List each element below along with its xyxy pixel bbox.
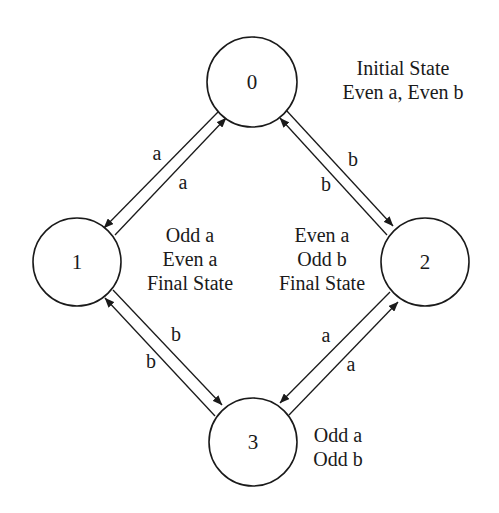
transition-symbol-label: b xyxy=(171,323,181,345)
states: 0123 xyxy=(33,37,469,486)
transition-arrow xyxy=(289,302,398,415)
transition-arrow xyxy=(115,118,226,235)
annotation-line: Odd b xyxy=(297,248,346,270)
state-2: 2 xyxy=(381,218,469,306)
transition-0-to-1: a xyxy=(104,112,218,228)
annotation-line: Odd a xyxy=(166,224,214,246)
transition-3-to-1: b xyxy=(105,298,215,416)
transition-arrow xyxy=(113,290,222,405)
transition-1-to-0: a xyxy=(115,118,226,235)
state-number-label: 0 xyxy=(247,70,258,94)
transition-symbol-label: b xyxy=(348,148,358,170)
transition-symbol-label: a xyxy=(347,353,356,375)
annotation-line: Final State xyxy=(147,272,233,294)
state-diagram: aabbbbaa 0123 Initial StateEven a, Even … xyxy=(0,0,499,513)
transition-0-to-2: b xyxy=(286,110,393,226)
annotation-line: Final State xyxy=(279,272,365,294)
transition-symbol-label: b xyxy=(146,350,156,372)
transition-symbol-label: a xyxy=(153,142,162,164)
state-2-annotation: Even aOdd bFinal State xyxy=(279,224,365,294)
transition-arrow xyxy=(280,292,390,403)
transition-symbol-label: b xyxy=(321,173,331,195)
annotation-line: Even a, Even b xyxy=(342,81,463,103)
transition-arrow xyxy=(104,112,218,228)
state-3: 3 xyxy=(209,398,297,486)
transition-symbol-label: a xyxy=(179,171,188,193)
state-1: 1 xyxy=(33,218,121,306)
annotation-line: Initial State xyxy=(357,57,450,79)
annotation-line: Odd a xyxy=(314,424,362,446)
transition-1-to-3: b xyxy=(113,290,222,405)
state-3-annotation: Odd aOdd b xyxy=(313,424,362,470)
state-0: 0 xyxy=(207,37,297,127)
transition-arrow xyxy=(105,298,215,416)
state-0-annotation: Initial StateEven a, Even b xyxy=(342,57,463,103)
transition-3-to-2: a xyxy=(289,302,398,415)
transition-2-to-3: a xyxy=(280,292,390,403)
transition-arrow xyxy=(286,110,393,226)
transition-2-to-0: b xyxy=(280,118,387,235)
transition-arrow xyxy=(280,118,387,235)
state-number-label: 1 xyxy=(72,250,83,274)
annotation-line: Odd b xyxy=(313,448,362,470)
transition-symbol-label: a xyxy=(322,324,331,346)
state-1-annotation: Odd aEven aFinal State xyxy=(147,224,233,294)
transitions: aabbbbaa xyxy=(104,110,398,416)
state-number-label: 2 xyxy=(420,250,431,274)
annotation-line: Even a xyxy=(163,248,218,270)
state-number-label: 3 xyxy=(248,430,259,454)
annotation-line: Even a xyxy=(295,224,350,246)
